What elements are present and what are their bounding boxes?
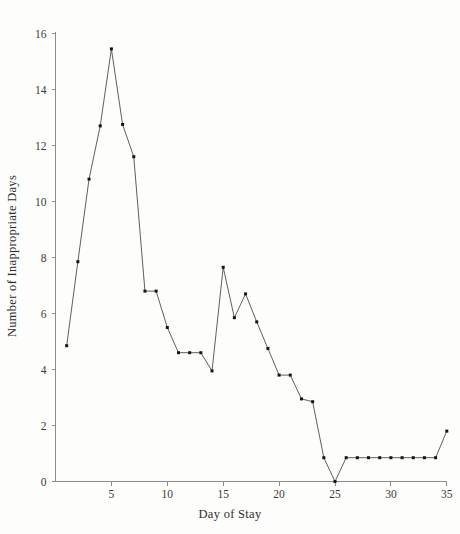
y-tick-label: 12	[35, 140, 47, 152]
data-point-marker	[367, 456, 370, 459]
x-tick-label: 5	[109, 488, 115, 500]
y-tick-label: 2	[41, 420, 47, 432]
y-axis-title: Number of Inappropriate Days	[5, 175, 19, 337]
data-point-marker	[356, 456, 359, 459]
data-point-marker	[222, 266, 225, 269]
data-point-marker	[412, 456, 415, 459]
data-point-marker	[278, 374, 281, 377]
x-tick-label: 10	[162, 488, 174, 500]
data-point-marker	[88, 178, 91, 181]
data-point-marker	[389, 456, 392, 459]
x-tick-label: 25	[329, 488, 341, 500]
data-point-marker	[143, 290, 146, 293]
data-point-marker	[65, 344, 68, 347]
chart-page: 0246810121416 5101520253035 Day of Stay …	[0, 0, 460, 534]
x-axis-title: Day of Stay	[198, 507, 261, 521]
x-tick-label: 35	[441, 488, 453, 500]
x-tick-label: 30	[385, 488, 397, 500]
data-point-marker	[434, 456, 437, 459]
series-line-path	[67, 49, 447, 482]
y-tick-label: 4	[41, 364, 47, 376]
y-axis-ticks: 0246810121416	[35, 28, 56, 488]
data-point-marker	[322, 456, 325, 459]
data-point-marker	[177, 351, 180, 354]
data-point-marker	[110, 47, 113, 50]
y-tick-label: 8	[41, 252, 47, 264]
data-point-marker	[445, 430, 448, 433]
data-point-marker	[300, 397, 303, 400]
data-point-marker	[244, 292, 247, 295]
data-point-marker	[76, 260, 79, 263]
data-point-marker	[311, 400, 314, 403]
y-tick-label: 16	[35, 28, 47, 40]
x-axis-ticks: 5101520253035	[109, 482, 453, 500]
y-tick-label: 6	[41, 308, 47, 320]
data-series	[65, 47, 448, 483]
plot-area: 0246810121416 5101520253035 Day of Stay …	[0, 0, 460, 534]
data-point-marker	[423, 456, 426, 459]
x-tick-label: 15	[217, 488, 229, 500]
x-tick-label: 20	[273, 488, 285, 500]
data-point-marker	[255, 320, 258, 323]
series-markers	[65, 47, 448, 483]
data-point-marker	[121, 123, 124, 126]
data-point-marker	[378, 456, 381, 459]
data-point-marker	[166, 326, 169, 329]
data-point-marker	[188, 351, 191, 354]
data-point-marker	[99, 124, 102, 127]
data-point-marker	[401, 456, 404, 459]
data-point-marker	[199, 351, 202, 354]
data-point-marker	[155, 290, 158, 293]
y-tick-label: 0	[41, 476, 47, 488]
y-tick-label: 14	[35, 84, 47, 96]
y-tick-label: 10	[35, 196, 47, 208]
data-point-marker	[289, 374, 292, 377]
data-point-marker	[345, 456, 348, 459]
data-point-marker	[266, 347, 269, 350]
data-point-marker	[334, 480, 337, 483]
line-chart-figure: 0246810121416 5101520253035 Day of Stay …	[0, 0, 460, 534]
chart-axes	[56, 32, 448, 482]
data-point-marker	[233, 316, 236, 319]
data-point-marker	[211, 369, 214, 372]
data-point-marker	[132, 155, 135, 158]
